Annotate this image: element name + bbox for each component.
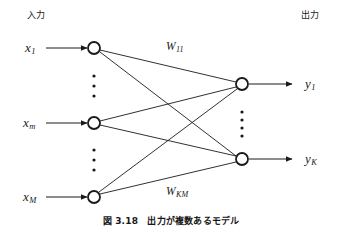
output-label-y1: y1 [305, 77, 316, 92]
input-label-xm-subscript: m [29, 121, 36, 131]
figure-caption: 図 3.18 出力が複数あるモデル [0, 214, 342, 227]
weight-label-wkm-subscript: KM [176, 190, 189, 199]
edge-inputm-output1 [100, 87, 236, 121]
input-label-xM-base: x [23, 189, 29, 204]
output-node-K [236, 153, 248, 165]
input-arrows [46, 48, 87, 197]
connection-edges [99, 50, 237, 194]
output-label-yK-subscript: K [311, 157, 317, 167]
output-arrows [249, 84, 292, 159]
output-node-1 [236, 78, 248, 90]
input-node-1 [88, 42, 100, 54]
weight-label-w11-subscript: 11 [176, 45, 184, 54]
input-node-m [88, 117, 100, 129]
input-label-xm: xm [23, 116, 35, 131]
input-header-label: 入力 [27, 11, 46, 20]
input-label-x1: x1 [25, 41, 36, 56]
input-label-x1-subscript: 1 [31, 46, 36, 56]
vertical-ellipsis-dots [92, 74, 243, 171]
output-label-yK: yK [305, 152, 317, 167]
weight-label-wkm-base: W [166, 185, 176, 197]
output-label-yK-base: y [305, 151, 311, 166]
weight-label-w11: W11 [166, 41, 184, 54]
input-ellipsis-upper-icon [92, 74, 95, 97]
output-label-y1-base: y [305, 76, 311, 91]
input-label-xm-base: x [23, 115, 29, 130]
output-label-y1-subscript: 1 [311, 82, 316, 92]
figure-container: 入力 出力 x1 xm xM y1 yK W11 WKM 図 3.18 出力が複… [0, 0, 342, 238]
output-header-label: 出力 [301, 11, 320, 20]
input-node-M [88, 191, 100, 203]
neural-network-diagram [0, 0, 342, 238]
input-label-x1-base: x [25, 40, 31, 55]
input-ellipsis-lower-icon [92, 148, 95, 171]
output-ellipsis-icon [240, 110, 243, 137]
edge-input1-output1 [100, 50, 236, 82]
input-label-xM: xM [23, 190, 36, 205]
weight-label-wkm: WKM [166, 186, 188, 199]
weight-label-w11-base: W [166, 40, 176, 52]
input-label-xM-subscript: M [29, 195, 37, 205]
